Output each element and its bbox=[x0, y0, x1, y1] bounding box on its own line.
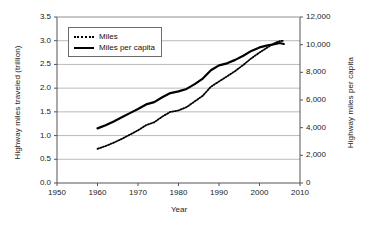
x-tick-label: 1950 bbox=[37, 189, 77, 197]
y-tick-label-right: 12,000 bbox=[306, 13, 352, 21]
legend-label-miles-per-capita: Miles per capita bbox=[99, 43, 155, 52]
x-tick-label: 1990 bbox=[199, 189, 239, 197]
y-tick-label-left: 0.5 bbox=[5, 155, 51, 163]
x-tick-label: 1970 bbox=[118, 189, 158, 197]
y-tick-label-left: 2.5 bbox=[5, 60, 51, 68]
y-tick-label-right: 4,000 bbox=[306, 124, 352, 132]
x-tick-label: 1960 bbox=[78, 189, 118, 197]
y-tick-label-left: 2.0 bbox=[5, 84, 51, 92]
y-tick-label-left: 1.5 bbox=[5, 108, 51, 116]
y-tick-label-right: 8,000 bbox=[306, 68, 352, 76]
y-tick-label-right: 0 bbox=[306, 179, 352, 187]
chart-figure: Highway miles traveled (trillion) Highwa… bbox=[0, 0, 367, 227]
chart-legend: Miles Miles per capita bbox=[68, 27, 162, 57]
legend-item-miles: Miles bbox=[73, 31, 155, 42]
legend-item-miles-per-capita: Miles per capita bbox=[73, 42, 155, 53]
y-tick-label-left: 3.0 bbox=[5, 37, 51, 45]
y-tick-label-right: 6,000 bbox=[306, 96, 352, 104]
y-tick-label-right: 2,000 bbox=[306, 151, 352, 159]
legend-dotted-line-icon bbox=[73, 32, 95, 41]
y-tick-label-left: 0.0 bbox=[5, 179, 51, 187]
x-tick-label: 2010 bbox=[280, 189, 320, 197]
x-tick-label: 1980 bbox=[159, 189, 199, 197]
y-tick-label-left: 1.0 bbox=[5, 132, 51, 140]
legend-label-miles: Miles bbox=[99, 32, 118, 41]
legend-solid-line-icon bbox=[73, 43, 95, 52]
y-tick-label-left: 3.5 bbox=[5, 13, 51, 21]
x-tick-label: 2000 bbox=[240, 189, 280, 197]
y-tick-label-right: 10,000 bbox=[306, 41, 352, 49]
